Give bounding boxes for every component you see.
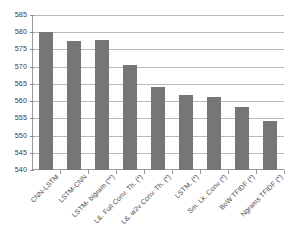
bar-slot [60,15,88,170]
bar[interactable] [123,65,137,170]
bar[interactable] [67,41,81,170]
bar-chart: CNN-LSTMLSTM-CNNLSTM- bigram (**)L&. Ful… [0,0,295,243]
x-axis-category-label: L&. Full Conv. Th. (*) [92,173,143,224]
bar[interactable] [263,121,277,170]
x-axis-category-label: L&. w2v Conv. Th. (*) [120,173,172,225]
bar-slot [172,15,200,170]
y-axis-tick-label: 550 [1,132,27,139]
x-axis-tick [60,170,61,174]
x-axis-tick [228,170,229,174]
y-axis-tick-label: 560 [1,97,27,104]
bar[interactable] [179,95,193,170]
y-axis-tick-label: 565 [1,80,27,87]
x-axis-labels: CNN-LSTMLSTM-CNNLSTM- bigram (**)L&. Ful… [0,170,295,243]
bar-slot [88,15,116,170]
bar[interactable] [39,32,53,170]
bar-slot [144,15,172,170]
x-axis-tick [172,170,173,174]
bar[interactable] [235,107,249,170]
bar-slot [32,15,60,170]
bar[interactable] [151,87,165,170]
x-axis-tick [200,170,201,174]
y-axis-tick-label: 575 [1,45,27,52]
bar-slot [116,15,144,170]
y-axis-tick-label: 545 [1,149,27,156]
x-axis-tick [284,170,285,174]
y-axis-tick-label: 580 [1,28,27,35]
x-axis-tick [256,170,257,174]
y-axis-tick-label: 555 [1,114,27,121]
y-axis-tick-label: 570 [1,63,27,70]
x-axis-category-label: LSTM. (*) [173,173,199,199]
bar-slot [256,15,284,170]
x-axis-tick [116,170,117,174]
bar-slot [200,15,228,170]
bars-layer [32,15,284,170]
x-axis-tick [88,170,89,174]
x-axis-tick [144,170,145,174]
x-axis-category-label: CNN-LSTM [29,173,60,204]
bar-slot [228,15,256,170]
y-axis-tick-label: 585 [1,11,27,18]
y-axis-tick-label: 540 [1,166,27,173]
bar[interactable] [207,97,221,170]
bar[interactable] [95,40,109,170]
